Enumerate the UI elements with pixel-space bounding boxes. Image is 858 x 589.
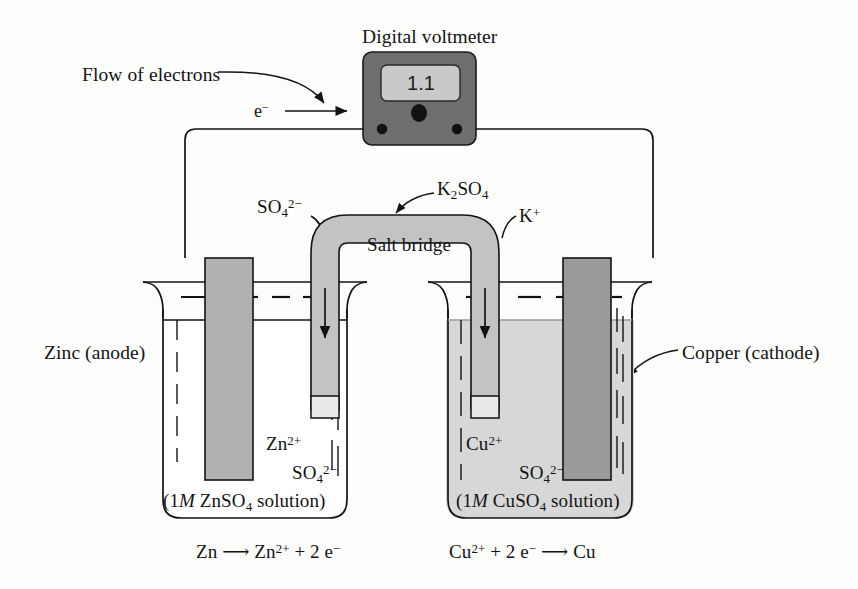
right-beaker-rim-right — [632, 282, 652, 318]
cathode-half-reaction: Cu2+ + 2 e− ⟶ Cu — [449, 540, 596, 563]
copper-cathode-label: Copper (cathode) — [682, 342, 820, 364]
sulfate-ion-right-label: SO42− — [519, 462, 564, 487]
right-solution-caption: (1M CuSO4 solution) — [456, 490, 620, 515]
salt-bridge-plug-right — [471, 396, 499, 418]
zinc-cation-label: Zn2+ — [266, 433, 301, 455]
electron-symbol-label: e− — [254, 101, 269, 122]
flow-of-electrons-label: Flow of electrons — [82, 64, 220, 86]
left-solution-caption: (1M ZnSO4 solution) — [163, 490, 326, 515]
curved-arrow-icon-copper — [628, 350, 678, 376]
salt-bridge-label: Salt bridge — [367, 234, 451, 256]
zinc-anode-label: Zinc (anode) — [44, 342, 145, 364]
cell-diagram-figure: Digital voltmeter 1.1 Flow of electrons … — [0, 0, 858, 589]
left-beaker-rim — [143, 282, 163, 318]
salt-bridge-plug-left — [311, 396, 339, 418]
k2so4-label: K2SO4 — [437, 178, 488, 203]
digital-voltmeter[interactable] — [363, 52, 476, 145]
left-beaker-rim-right — [347, 282, 367, 318]
curved-arrow-icon-k2so4 — [396, 193, 434, 213]
sulfate-ion-left-label: SO42− — [292, 462, 337, 487]
copper-electrode — [563, 258, 611, 480]
right-beaker-rim — [428, 282, 448, 318]
voltmeter-title-label: Digital voltmeter — [362, 26, 497, 48]
potassium-ion-label: K+ — [519, 205, 540, 227]
curved-arrow-icon-voltmeter — [218, 72, 324, 103]
voltmeter-terminal-left[interactable] — [377, 124, 387, 134]
leader-kplus — [502, 216, 516, 238]
anode-half-reaction: Zn ⟶ Zn2+ + 2 e− — [196, 540, 340, 563]
voltmeter-knob[interactable] — [411, 104, 427, 122]
voltmeter-reading: 1.1 — [386, 72, 456, 95]
copper-cation-label: Cu2+ — [466, 433, 502, 455]
voltmeter-terminal-right[interactable] — [452, 124, 462, 134]
sulfate-ion-bridge-label: SO42− — [257, 196, 302, 221]
zinc-electrode — [205, 258, 253, 480]
